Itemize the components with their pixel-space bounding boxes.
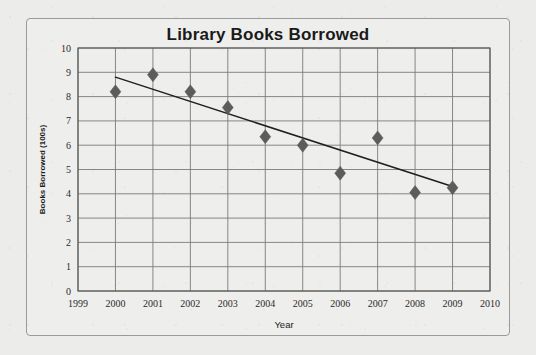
- y-tick-label: 10: [61, 43, 71, 54]
- data-point-marker: [372, 131, 383, 145]
- x-tick-label: 2007: [368, 298, 388, 309]
- y-tick-label: 8: [66, 91, 71, 102]
- y-axis-title: Books Borrowed (100s): [38, 124, 47, 214]
- y-tick-label: 0: [66, 286, 71, 297]
- y-tick-label: 4: [66, 188, 71, 199]
- data-point-marker: [335, 166, 346, 180]
- x-tick-label: 2001: [143, 298, 163, 309]
- data-point-marker: [410, 186, 421, 200]
- y-tick-label: 6: [66, 140, 71, 151]
- x-tick-label: 1999: [68, 298, 88, 309]
- x-axis-title: Year: [274, 319, 293, 330]
- x-tick-label: 2003: [218, 298, 238, 309]
- y-tick-label: 9: [66, 67, 71, 78]
- y-tick-label: 2: [66, 237, 71, 248]
- trend-line: [115, 77, 452, 186]
- y-axis-tick-labels: 012345678910: [61, 43, 71, 297]
- chart-plot-area: 012345678910 199920002001200220032004200…: [27, 19, 511, 337]
- y-tick-label: 1: [66, 261, 71, 272]
- x-tick-label: 2000: [105, 298, 125, 309]
- x-tick-label: 2006: [330, 298, 350, 309]
- data-point-marker: [447, 181, 458, 195]
- data-point-marker: [297, 138, 308, 152]
- x-tick-label: 2004: [255, 298, 275, 309]
- x-tick-label: 2009: [443, 298, 463, 309]
- data-point-marker: [260, 130, 271, 144]
- y-tick-label: 7: [66, 115, 71, 126]
- y-tick-label: 3: [66, 213, 71, 224]
- x-tick-label: 2010: [480, 298, 500, 309]
- x-tick-label: 2008: [405, 298, 425, 309]
- y-tick-label: 5: [66, 164, 71, 175]
- chart-figure-frame: Library Books Borrowed 012345678910 1999…: [26, 18, 510, 336]
- data-point-marker: [147, 68, 158, 82]
- x-tick-label: 2005: [293, 298, 313, 309]
- x-tick-label: 2002: [180, 298, 200, 309]
- data-point-markers: [110, 68, 458, 200]
- x-axis-tick-labels: 1999200020012002200320042005200620072008…: [68, 298, 500, 309]
